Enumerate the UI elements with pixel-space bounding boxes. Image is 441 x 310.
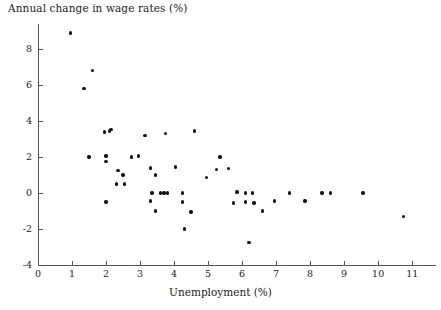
x-tick-label: 2 [94,268,118,279]
data-point [303,199,306,202]
data-point [247,241,250,244]
y-tick-label: 0 [10,187,32,198]
data-point [244,191,247,194]
y-tick-label: -2 [10,223,32,234]
x-axis-line [38,265,436,266]
data-point [288,191,291,194]
data-point [205,176,208,179]
data-point [320,191,323,194]
data-point [235,190,238,193]
y-tick-mark [39,49,43,50]
x-tick-label: 5 [196,268,220,279]
data-point [109,128,112,131]
data-point [183,227,186,230]
y-tick-mark [39,229,43,230]
data-point [87,155,90,158]
x-tick-mark [106,261,107,265]
y-tick-label: -4 [10,259,32,270]
data-point [149,199,152,202]
data-point [103,130,106,133]
y-tick-mark [39,157,43,158]
y-tick-label: 6 [10,79,32,90]
y-tick-label: 2 [10,151,32,162]
y-tick-label: 8 [10,43,32,54]
data-point [189,210,192,213]
data-point [130,155,133,158]
y-tick-label: 4 [10,115,32,126]
x-tick-mark [412,261,413,265]
x-tick-mark [310,261,311,265]
data-point [149,166,152,169]
x-tick-mark [208,261,209,265]
x-tick-label: 11 [400,268,424,279]
x-tick-label: 1 [60,268,84,279]
data-point [154,173,157,176]
x-tick-mark [72,261,73,265]
data-point [215,168,218,171]
x-tick-mark [242,261,243,265]
data-point [181,200,184,203]
y-tick-mark [39,193,43,194]
x-tick-mark [344,261,345,265]
data-point [115,182,118,185]
data-point [154,209,157,212]
data-point [251,191,254,194]
y-tick-mark [39,85,43,86]
x-tick-label: 3 [128,268,152,279]
chart-page: Annual change in wage rates (%) 01234567… [0,0,441,310]
y-tick-mark [39,265,43,266]
data-point [261,209,264,212]
data-point [193,129,196,132]
x-tick-mark [276,261,277,265]
data-point [150,191,153,194]
data-point [174,165,177,168]
data-point [232,201,235,204]
data-point [329,191,332,194]
data-point [181,191,184,194]
data-point [104,154,107,157]
data-point [121,173,124,176]
data-point [123,182,126,185]
x-tick-label: 9 [332,268,356,279]
data-point [227,167,230,170]
data-point [166,191,169,194]
x-tick-mark [140,261,141,265]
data-point [143,134,146,137]
data-point [361,191,364,194]
data-point [244,200,247,203]
data-point [104,200,107,203]
x-tick-label: 10 [366,268,390,279]
x-tick-mark [174,261,175,265]
x-tick-label: 4 [162,268,186,279]
x-axis-title: Unemployment (%) [0,286,441,298]
data-point [137,154,140,157]
y-tick-mark [39,121,43,122]
data-point [252,201,255,204]
data-point [69,31,72,34]
data-point [82,87,85,90]
data-point [104,160,107,163]
data-point [273,199,276,202]
data-point [91,69,94,72]
data-point [402,215,405,218]
x-tick-label: 8 [298,268,322,279]
x-tick-mark [378,261,379,265]
x-tick-label: 6 [230,268,254,279]
scatter-plot-area: 01234567891011 -4-202468 [0,0,441,310]
data-point [116,169,119,172]
data-point [218,155,221,158]
x-tick-label: 7 [264,268,288,279]
data-point [164,132,167,135]
